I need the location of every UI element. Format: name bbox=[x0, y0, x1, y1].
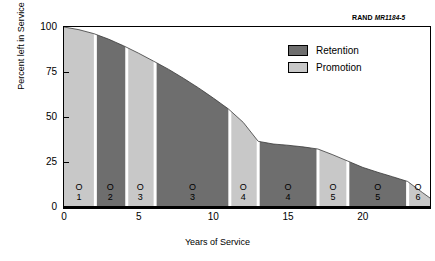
y-tick-label-0: 0 bbox=[17, 202, 57, 212]
source-document: MR1184-5 bbox=[375, 14, 406, 21]
source-credit: RAND MR1184-5 bbox=[352, 14, 405, 21]
grade-letter: O bbox=[318, 182, 348, 192]
grade-number: 3 bbox=[125, 192, 155, 202]
grade-annotation-o-2: O2 bbox=[95, 182, 125, 202]
legend-item-retention: Retention bbox=[288, 45, 362, 56]
chart-legend: Retention Promotion bbox=[288, 45, 362, 79]
grade-annotation-o-1: O1 bbox=[64, 182, 94, 202]
y-tick-label-50: 50 bbox=[17, 112, 57, 122]
y-tick-label-25: 25 bbox=[17, 157, 57, 167]
grade-number: 4 bbox=[273, 192, 303, 202]
grade-number: 1 bbox=[64, 192, 94, 202]
grade-letter: O bbox=[64, 182, 94, 192]
x-tick-label-5: 5 bbox=[119, 212, 159, 222]
legend-label-retention: Retention bbox=[316, 45, 359, 56]
y-tick-label-100: 100 bbox=[17, 22, 57, 32]
chart-canvas bbox=[64, 27, 430, 207]
grade-annotation-o-5: O5 bbox=[318, 182, 348, 202]
grade-letter: O bbox=[403, 182, 433, 192]
plot-area bbox=[63, 26, 431, 208]
y-tick-mark-75 bbox=[64, 72, 69, 73]
grade-number: 4 bbox=[228, 192, 258, 202]
x-tick-label-0: 0 bbox=[44, 212, 84, 222]
chart-figure: RAND MR1184-5 Percent left in Service Ye… bbox=[0, 0, 435, 261]
y-tick-mark-50 bbox=[64, 117, 69, 118]
legend-item-promotion: Promotion bbox=[288, 62, 362, 73]
source-org: RAND bbox=[352, 14, 373, 21]
x-axis-label: Years of Service bbox=[0, 237, 435, 247]
grade-letter: O bbox=[363, 182, 393, 192]
x-axis-baseline bbox=[63, 206, 431, 209]
y-tick-label-75: 75 bbox=[17, 67, 57, 77]
x-tick-label-10: 10 bbox=[193, 212, 233, 222]
y-tick-mark-25 bbox=[64, 162, 69, 163]
legend-swatch-retention bbox=[288, 45, 308, 56]
legend-label-promotion: Promotion bbox=[316, 62, 362, 73]
grade-letter: O bbox=[95, 182, 125, 192]
grade-annotation-o-6: O6 bbox=[403, 182, 433, 202]
grade-letter: O bbox=[228, 182, 258, 192]
grade-number: 6 bbox=[403, 192, 433, 202]
grade-annotation-o-4: O4 bbox=[228, 182, 258, 202]
grade-number: 5 bbox=[363, 192, 393, 202]
x-tick-label-20: 20 bbox=[343, 212, 383, 222]
grade-letter: O bbox=[177, 182, 207, 192]
x-tick-label-15: 15 bbox=[268, 212, 308, 222]
grade-number: 3 bbox=[177, 192, 207, 202]
grade-annotation-o-4: O4 bbox=[273, 182, 303, 202]
grade-annotation-o-5: O5 bbox=[363, 182, 393, 202]
grade-letter: O bbox=[125, 182, 155, 192]
grade-number: 5 bbox=[318, 192, 348, 202]
y-axis-label: Percent left in Service bbox=[16, 0, 26, 106]
legend-swatch-promotion bbox=[288, 62, 308, 73]
grade-annotation-o-3: O3 bbox=[125, 182, 155, 202]
grade-letter: O bbox=[273, 182, 303, 192]
grade-annotation-o-3: O3 bbox=[177, 182, 207, 202]
grade-number: 2 bbox=[95, 192, 125, 202]
